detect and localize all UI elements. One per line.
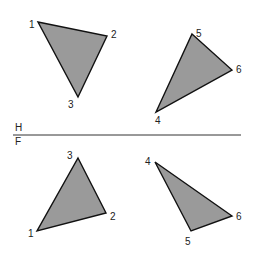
top-view-triangle-123: 123 xyxy=(29,19,117,110)
vertex-label: 2 xyxy=(111,29,117,40)
fold-label-f: F xyxy=(15,136,21,147)
front-view-triangle-456: 465 xyxy=(145,156,242,247)
fold-label-h: H xyxy=(15,122,22,133)
diagram-svg: H F 123564321465 xyxy=(0,0,264,258)
vertex-label: 6 xyxy=(236,64,242,75)
triangle-shape xyxy=(155,162,232,231)
triangle-shape xyxy=(156,34,232,112)
vertex-label: 4 xyxy=(155,115,161,126)
vertex-label: 1 xyxy=(28,228,34,239)
vertex-label: 5 xyxy=(185,236,191,247)
orthographic-projection-diagram: H F 123564321465 xyxy=(0,0,264,258)
vertex-label: 2 xyxy=(110,211,116,222)
vertex-label: 1 xyxy=(29,19,35,30)
vertex-label: 3 xyxy=(67,150,73,161)
triangle-shape xyxy=(37,158,106,231)
triangle-shape xyxy=(38,22,107,97)
front-view-triangle-123: 321 xyxy=(28,150,116,239)
triangle-views: 123564321465 xyxy=(28,19,242,247)
vertex-label: 5 xyxy=(196,28,202,39)
vertex-label: 3 xyxy=(68,99,74,110)
vertex-label: 6 xyxy=(236,211,242,222)
vertex-label: 4 xyxy=(145,156,151,167)
top-view-triangle-456: 564 xyxy=(155,28,242,126)
